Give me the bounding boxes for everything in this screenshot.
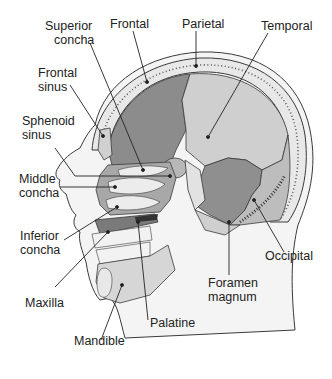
label-line: Occipital [265, 249, 313, 263]
label-foramen-magnum: Foramen magnum [208, 276, 258, 304]
label-line: Parietal [182, 17, 224, 31]
label-line: Palatine [150, 316, 195, 330]
label-line: Foramen [208, 276, 258, 290]
label-sphenoid-sinus: Sphenoid sinus [22, 114, 75, 142]
label-line: sinus [22, 128, 75, 142]
label-palatine: Palatine [150, 316, 195, 330]
label-mandible: Mandible [74, 334, 125, 348]
label-line: concha [20, 243, 60, 257]
label-line: Temporal [261, 19, 312, 33]
label-temporal: Temporal [261, 19, 312, 33]
label-line: magnum [208, 290, 258, 304]
label-line: Middle [19, 172, 59, 186]
label-inferior-concha: Inferior concha [20, 229, 60, 257]
label-occipital: Occipital [265, 249, 313, 263]
label-line: sinus [38, 80, 77, 94]
label-line: Frontal [38, 66, 77, 80]
label-line: Maxilla [25, 296, 64, 310]
label-frontal-sinus: Frontal sinus [38, 66, 77, 94]
mandible-spongy-symphysis [97, 268, 112, 297]
label-maxilla: Maxilla [25, 296, 64, 310]
label-line: Mandible [74, 334, 125, 348]
label-line: Superior [45, 19, 94, 33]
label-line: Sphenoid [22, 114, 75, 128]
label-frontal: Frontal [110, 17, 149, 31]
label-parietal: Parietal [182, 17, 224, 31]
label-superior-concha: Superior concha [45, 19, 94, 47]
label-line: concha [45, 33, 94, 47]
label-middle-concha: Middle concha [19, 172, 59, 200]
label-line: concha [19, 186, 59, 200]
label-line: Frontal [110, 17, 149, 31]
label-line: Inferior [20, 229, 60, 243]
